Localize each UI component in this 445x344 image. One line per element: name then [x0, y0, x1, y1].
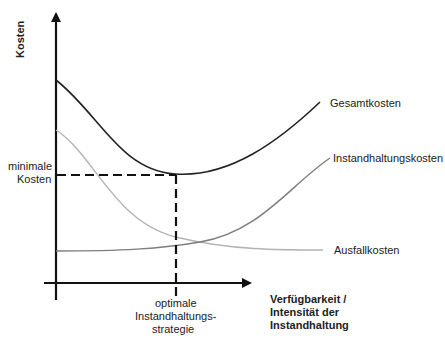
gesamtkosten-curve [56, 80, 320, 174]
instandhaltungskosten-curve [56, 158, 330, 251]
legend-instandhaltungskosten: Instandhaltungskosten [333, 152, 443, 165]
ausfallkosten-curve [56, 130, 323, 250]
y-axis-label: Kosten [14, 21, 26, 58]
x-axis-label-3: Instandhaltung [270, 319, 349, 332]
cost-diagram [0, 0, 445, 344]
legend-gesamtkosten: Gesamtkosten [330, 97, 401, 110]
optimum-label-3: strategie [152, 323, 194, 336]
legend-ausfallkosten: Ausfallkosten [334, 244, 399, 257]
x-axis-label-2: Intensität der [270, 306, 339, 319]
min-cost-label-1: minimale [8, 160, 52, 173]
optimum-label-2: Instandhaltungs- [135, 310, 216, 323]
x-axis-label-1: Verfügbarkeit / [270, 293, 346, 306]
min-cost-label-2: Kosten [17, 173, 51, 186]
optimum-label-1: optimale [155, 297, 197, 310]
